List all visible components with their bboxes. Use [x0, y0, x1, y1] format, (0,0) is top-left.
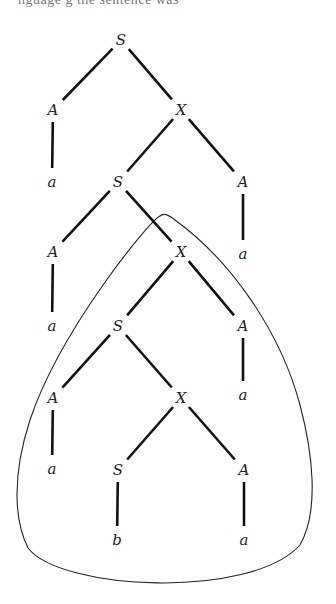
- tree-edges: [52, 49, 244, 526]
- tree-edge: [63, 49, 113, 100]
- tree-edge: [63, 191, 110, 242]
- tree-node-X: X: [175, 243, 188, 261]
- tree-node-A: A: [46, 389, 59, 407]
- tree-node-a: a: [240, 531, 249, 549]
- tree-node-S: S: [116, 31, 126, 49]
- tree-edge: [189, 119, 234, 171]
- parse-tree-diagram: SAXaSAAXaaSAAXaaSAba: [0, 0, 336, 604]
- tree-node-A: A: [236, 173, 249, 191]
- tree-edge: [126, 335, 172, 388]
- tree-node-S: S: [113, 173, 123, 191]
- tree-node-X: X: [175, 101, 188, 119]
- tree-node-A: A: [236, 317, 249, 335]
- tree-node-A: A: [237, 461, 250, 479]
- tree-edge: [117, 482, 118, 526]
- tree-node-a: a: [239, 245, 248, 263]
- tree-node-S: S: [113, 461, 123, 479]
- tree-edge: [52, 264, 53, 312]
- tree-node-a: a: [48, 460, 57, 478]
- tree-node-a: a: [48, 317, 57, 335]
- tree-edge: [52, 122, 53, 168]
- tree-node-a: a: [239, 386, 248, 404]
- tree-node-a: a: [48, 173, 57, 191]
- tree-edge: [127, 261, 173, 315]
- tree-edge: [52, 410, 53, 455]
- tree-edge: [127, 407, 173, 460]
- tree-edge: [126, 191, 172, 242]
- tree-edge: [129, 49, 172, 99]
- tree-node-b: b: [112, 531, 122, 549]
- tree-edge: [62, 335, 110, 388]
- tree-node-S: S: [113, 317, 123, 335]
- tree-node-A: A: [46, 101, 59, 119]
- tree-edge: [189, 407, 235, 460]
- tree-node-X: X: [175, 389, 188, 407]
- tree-node-A: A: [46, 243, 59, 261]
- tree-edge: [127, 119, 173, 172]
